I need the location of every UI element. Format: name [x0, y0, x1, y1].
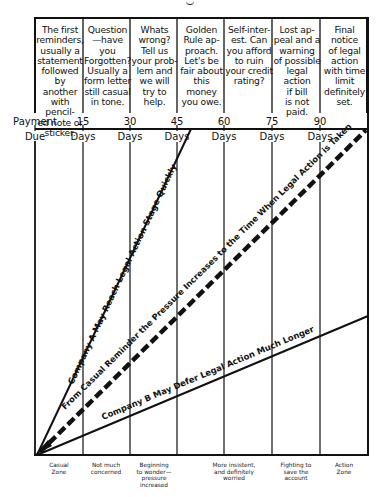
axis-tick-top-75: 75 [257, 116, 287, 127]
header-cell-30-days: Whats wrong? Tell us your prob- lem and … [131, 25, 178, 107]
axis-tick-bottom-days: Days [252, 131, 292, 142]
axis-tick-top-90: 90 [305, 116, 335, 127]
header-box: The first reminders, usually a statement… [34, 17, 368, 113]
header-cell-60-days: Self-inter- est. Can you afford to ruin … [225, 25, 273, 87]
zone-action: Action Zone [320, 462, 368, 475]
zone-casual: Casual Zone [36, 462, 82, 475]
axis-tick-bottom-days: Days [204, 131, 244, 142]
axis-tick-bottom-days: Days [63, 131, 103, 142]
zone-fighting-to-save: Fighting to save the account [272, 462, 320, 482]
axis-tick-top-45: 45 [162, 116, 192, 127]
axis-tick-top-payment: Payment [10, 116, 60, 127]
header-cell-45-days: Golden Rule ap- proach. Let's be fair ab… [178, 25, 225, 107]
pressure-dashed-line [40, 130, 366, 452]
header-cell-90-days: Final notice of legal action with time l… [321, 25, 368, 107]
zone-more-insistent: More insistent, and definitely worried [200, 462, 268, 482]
zone-beginning-to-wonder: Beginning to wonder— pressure increased [130, 462, 178, 488]
axis-tick-top-15: 15 [68, 116, 98, 127]
axis-tick-bottom-days: Days [157, 131, 197, 142]
axis-tick-top-30: 30 [115, 116, 145, 127]
header-cell-15-days: Question —have you Forgotten? Usually a … [84, 25, 131, 107]
axis-tick-bottom-due: Due [15, 131, 55, 142]
axis-tick-bottom-days: Days [110, 131, 150, 142]
axis-tick-bottom-days: Days [300, 131, 340, 142]
header-cell-75-days: Lost ap- peal and a warning of possible … [273, 25, 321, 118]
collection-pressure-diagram: Company A May Reach Legal Action Stage Q… [0, 0, 384, 497]
axis-tick-top-60: 60 [209, 116, 239, 127]
zone-not-much-concerned: Not much concerned [83, 462, 129, 475]
